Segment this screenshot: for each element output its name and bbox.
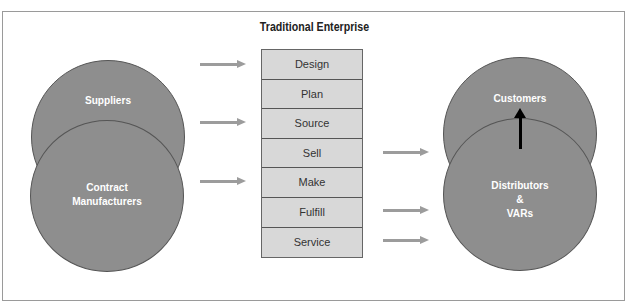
arrow-right-icon bbox=[383, 206, 429, 214]
distributors-vars-label: Distributors & VARs bbox=[467, 178, 573, 220]
arrow-right-icon bbox=[383, 148, 429, 156]
ampersand-line: & bbox=[467, 192, 573, 206]
step-service: Service bbox=[262, 228, 362, 258]
arrow-right-icon bbox=[200, 177, 246, 185]
step-make: Make bbox=[262, 168, 362, 198]
arrow-right-icon bbox=[200, 60, 246, 68]
arrow-right-icon bbox=[383, 236, 429, 244]
process-stack: Design Plan Source Sell Make Fulfill Ser… bbox=[261, 49, 363, 258]
contract-manufacturers-label: Contract Manufacturers bbox=[54, 180, 160, 208]
distributors-line: Distributors bbox=[467, 178, 573, 192]
contract-manufacturers-line1: Contract bbox=[54, 180, 160, 194]
vars-line: VARs bbox=[467, 206, 573, 220]
step-design: Design bbox=[262, 50, 362, 80]
customers-label: Customers bbox=[476, 91, 564, 105]
step-sell: Sell bbox=[262, 139, 362, 169]
contract-manufacturers-line2: Manufacturers bbox=[54, 194, 160, 208]
suppliers-label: Suppliers bbox=[64, 93, 152, 107]
step-plan: Plan bbox=[262, 80, 362, 110]
up-arrow-icon bbox=[514, 108, 526, 149]
step-source: Source bbox=[262, 109, 362, 139]
diagram-title: Traditional Enterprise bbox=[47, 20, 582, 34]
arrow-right-icon bbox=[200, 118, 246, 126]
step-fulfill: Fulfill bbox=[262, 198, 362, 228]
